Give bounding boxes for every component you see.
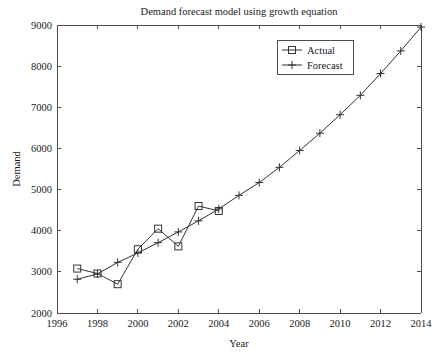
y-tick-label: 5000 [31,184,52,195]
x-tick-label: 2006 [249,318,270,329]
chart-figure: Demand forecast model using growth equat… [0,0,443,360]
y-tick-label: 4000 [31,225,52,236]
x-tick-label: 2000 [127,318,148,329]
legend-label-text: Actual [307,45,335,56]
demand-forecast-chart: Demand forecast model using growth equat… [0,0,443,360]
x-axis-title: Year [229,338,249,349]
x-tick-label: 2008 [289,318,310,329]
y-tick-label: 8000 [31,61,52,72]
x-tick-label: 1998 [87,318,108,329]
x-tick-label: 2010 [330,318,351,329]
x-axis-title-text: Year [229,338,249,349]
legend-entry-actual[interactable]: Actual [282,45,335,56]
x-tick-label: 1996 [47,318,68,329]
plot-background [0,0,443,360]
chart-title-text: Demand forecast model using growth equat… [141,6,339,17]
y-tick-label: 9000 [31,20,52,31]
chart-title-group: Demand forecast model using growth equat… [141,6,339,17]
chart-legend[interactable]: ActualForecast [277,40,353,74]
x-tick-label: 2002 [168,318,189,329]
y-tick-label: 6000 [31,143,52,154]
x-tick-label: 2004 [208,318,230,329]
y-tick-label: 3000 [31,266,52,277]
y-axis-title: Demand [11,150,22,186]
x-tick-label: 2014 [411,318,433,329]
x-tick-label: 2012 [370,318,391,329]
y-axis-title-text: Demand [11,150,22,186]
legend-label-text: Forecast [307,60,343,71]
y-tick-label: 2000 [31,308,52,319]
y-tick-label: 7000 [31,102,52,113]
